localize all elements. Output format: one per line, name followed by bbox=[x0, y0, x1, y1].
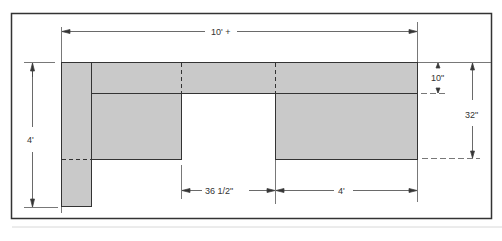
left-vertical-piece bbox=[62, 63, 92, 207]
dim-right-depth: 32" bbox=[465, 110, 478, 120]
dim-right-block-width: 4' bbox=[338, 186, 345, 196]
dim-overall-width: 10' + bbox=[211, 27, 231, 37]
top-strip bbox=[92, 63, 418, 94]
furniture-shape bbox=[62, 63, 418, 207]
left-lower-block bbox=[92, 94, 182, 160]
right-lower-block bbox=[276, 94, 418, 160]
dim-top-strip-depth: 10" bbox=[431, 73, 444, 83]
dim-gap-width: 36 1/2" bbox=[205, 186, 233, 196]
diagram-canvas: 10' + 4' 10" 32" 36 1/2" 4' bbox=[0, 0, 502, 241]
dim-left-height: 4' bbox=[27, 135, 34, 145]
